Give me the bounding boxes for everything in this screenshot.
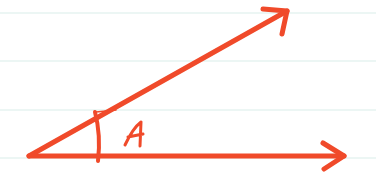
angle-label-glyph	[125, 122, 143, 146]
ruled-lines	[0, 13, 376, 158]
angle-diagram: A	[0, 0, 376, 178]
diagram-svg	[0, 0, 376, 178]
upper-ray	[29, 11, 287, 156]
